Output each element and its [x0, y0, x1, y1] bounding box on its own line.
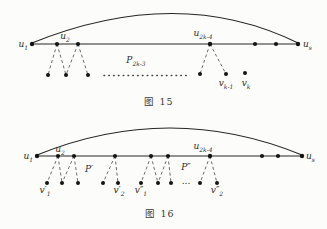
vertex-dot [56, 154, 60, 158]
label-v1-double-prime: v″1 [135, 185, 147, 197]
vertex-dot [260, 154, 264, 158]
pendant-edge [48, 44, 57, 75]
pendant-vertex-dot [169, 181, 173, 185]
pendant-edge [74, 156, 78, 183]
fig16-caption: 图 16 [145, 208, 174, 219]
pendant-vertex-dot [86, 73, 90, 77]
vertex-dot-us [300, 154, 304, 158]
pendant-vertex-dot [198, 181, 202, 185]
label-v1-prime: v′1 [40, 185, 51, 197]
pendant-edge [210, 44, 226, 74]
label-u2k-4: u2k-4 [194, 28, 213, 40]
label-P-prime: P′ [84, 164, 93, 174]
vertex-dot [274, 42, 278, 46]
pendant-edge [115, 156, 118, 183]
label-us: us [306, 151, 315, 163]
pendant-edge [210, 156, 217, 183]
vertex-dot [76, 42, 80, 46]
pendant-vertex-dot [64, 73, 68, 77]
pendant-vertex-dot [76, 181, 80, 185]
fig16-spanning-arc [37, 128, 302, 155]
label-u1: u1 [23, 151, 33, 163]
label-u1: u1 [18, 39, 28, 51]
vertex-dot [149, 154, 153, 158]
fig15-pendant-vertices [46, 71, 247, 77]
pendant-edge [57, 44, 66, 75]
pendant-edge [200, 44, 210, 74]
vertex-dot [72, 154, 76, 158]
fig16-pendant-vertices [45, 181, 219, 185]
pendant-vertex-dot [46, 73, 50, 77]
pendant-edge [58, 156, 62, 183]
vertex-dot [253, 42, 257, 46]
pendant-vertex-dot [156, 181, 160, 185]
vertex-dot-u1 [30, 42, 34, 46]
vertex-dot [113, 154, 117, 158]
label-u2k-4: u2k-4 [194, 141, 213, 153]
pendant-vertex-dot [198, 72, 202, 76]
label-us: us [303, 39, 312, 51]
ellipsis-dots: ... [182, 176, 191, 186]
vertex-dot [166, 154, 170, 158]
fig15-caption: 图 15 [144, 96, 173, 107]
label-v2-prime: v′2 [114, 185, 125, 197]
pendant-edge [151, 156, 158, 183]
figure-15: u1 u2 u2k-4 us P2k-3 vk-1 vk 图 15 [0, 0, 327, 112]
scanned-figure-page: u1 u2 u2k-4 us P2k-3 vk-1 vk 图 15 [0, 0, 327, 229]
pendant-edge [158, 156, 168, 183]
pendant-edge [200, 156, 210, 183]
label-vk-1: vk-1 [219, 78, 233, 90]
pendant-vertex-dot [60, 181, 64, 185]
pendant-edge [62, 156, 74, 183]
fig15-spanning-arc [32, 14, 298, 44]
pendant-edge [66, 44, 78, 75]
pendant-edge [168, 156, 171, 183]
pendant-edge [78, 44, 88, 75]
pendant-edge [103, 156, 115, 183]
pendant-edge [47, 156, 58, 183]
figure-16: u1 u2 u2k-4 us P′ P″ ... v′1 v′2 v″1 v″2… [0, 112, 327, 229]
label-vk: vk [242, 78, 251, 90]
pendant-edge [141, 156, 151, 183]
fig16-pendant-edges [47, 156, 217, 183]
vertex-dot-u2k4 [208, 154, 212, 158]
pendant-vertex-dot-vk [243, 71, 247, 75]
vertex-dot [276, 154, 280, 158]
label-P2k-3: P2k-3 [125, 55, 145, 67]
label-P-double-prime: P″ [180, 162, 191, 172]
vertex-dot-u1 [35, 154, 39, 158]
pendant-vertex-dot [101, 181, 105, 185]
label-u2: u2 [60, 31, 70, 43]
vertex-dot-us [296, 42, 300, 46]
pendant-vertex-dot-vk1 [224, 72, 228, 76]
label-v2-double-prime: v″2 [211, 185, 223, 197]
vertex-dot [55, 42, 59, 46]
vertex-dot-u2k4 [208, 42, 212, 46]
fig16-path-vertices [35, 154, 304, 158]
